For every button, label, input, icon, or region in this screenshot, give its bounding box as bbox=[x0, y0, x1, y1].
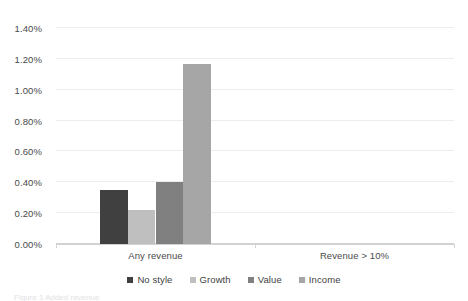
x-axis-category-label: Any revenue bbox=[128, 250, 182, 261]
x-axis-category-label: Revenue > 10% bbox=[320, 250, 389, 261]
legend-label: Growth bbox=[200, 274, 231, 285]
legend-label: Income bbox=[309, 274, 341, 285]
bar-growth bbox=[128, 210, 156, 244]
x-axis-category-labels: Any revenueRevenue > 10% bbox=[56, 250, 454, 266]
y-axis-tick-label: 1.00% bbox=[15, 84, 42, 95]
bar-value bbox=[156, 182, 184, 244]
legend-label: Value bbox=[258, 274, 282, 285]
chart-legend: No styleGrowthValueIncome bbox=[0, 274, 468, 285]
x-axis-tick bbox=[56, 244, 57, 248]
y-axis-tick-label: 0.40% bbox=[15, 177, 42, 188]
plot-area bbox=[56, 28, 454, 244]
legend-swatch-icon bbox=[127, 277, 133, 283]
bar-income bbox=[183, 64, 211, 245]
y-axis-tick-label: 1.40% bbox=[15, 23, 42, 34]
bars-layer bbox=[56, 28, 454, 244]
y-axis-tick-label: 0.00% bbox=[15, 239, 42, 250]
legend-swatch-icon bbox=[299, 277, 305, 283]
figure-caption: Figure 1 Added revenue bbox=[14, 294, 214, 301]
y-axis-tick-label: 1.20% bbox=[15, 53, 42, 64]
x-axis-tick bbox=[255, 244, 256, 248]
legend-swatch-icon bbox=[248, 277, 254, 283]
legend-swatch-icon bbox=[190, 277, 196, 283]
x-axis-tick bbox=[454, 244, 455, 248]
figure-caption-text: Figure 1 Added revenue bbox=[14, 294, 214, 301]
legend-label: No style bbox=[137, 274, 172, 285]
bar-chart-figure: 0.00%0.20%0.40%0.60%0.80%1.00%1.20%1.40%… bbox=[0, 0, 468, 301]
bar-no-style bbox=[100, 190, 128, 244]
y-axis-tick-label: 0.60% bbox=[15, 146, 42, 157]
legend-item-income[interactable]: Income bbox=[299, 274, 341, 285]
legend-item-no-style[interactable]: No style bbox=[127, 274, 172, 285]
y-axis-tick-labels: 0.00%0.20%0.40%0.60%0.80%1.00%1.20%1.40% bbox=[0, 28, 50, 244]
legend-item-value[interactable]: Value bbox=[248, 274, 282, 285]
y-axis-tick-label: 0.20% bbox=[15, 208, 42, 219]
legend-item-growth[interactable]: Growth bbox=[190, 274, 231, 285]
y-axis-tick-label: 0.80% bbox=[15, 115, 42, 126]
